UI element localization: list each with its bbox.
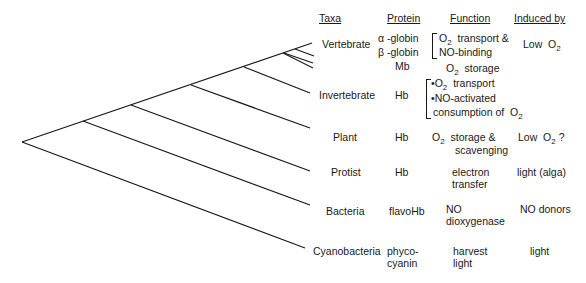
function-invertebrate-2: •NO-activated [431, 92, 496, 104]
protein-cyanobacteria-1: phyco- [387, 245, 419, 257]
induced-cyanobacteria: light [530, 245, 549, 257]
protein-beta-globin: β -globin [378, 46, 418, 58]
protein-bacteria: flavoHb [389, 205, 425, 217]
function-vertebrate-1: O2 transport & [439, 32, 509, 44]
branch-bacteria [83, 121, 310, 205]
protein-alpha-globin: α -globin [378, 32, 419, 44]
induced-plant: Low O2 ? [518, 131, 564, 143]
function-vertebrate-2: NO-binding [439, 46, 492, 58]
branch-mb [283, 53, 313, 68]
function-cyanobacteria-2: light [453, 257, 472, 269]
induced-bacteria: NO donors [520, 203, 571, 215]
branch-invertebrate [244, 67, 310, 93]
taxa-cyanobacteria: Cyanobacteria [313, 245, 381, 257]
protein-invertebrate: Hb [395, 89, 408, 101]
taxa-protist: Protist [331, 166, 361, 178]
header-function: Function [450, 12, 490, 24]
branch-plant [191, 85, 310, 128]
header-protein: Protein [387, 12, 420, 24]
function-plant-2: scavenging [455, 144, 508, 156]
function-invertebrate-3: consumption of O2 [433, 106, 523, 118]
function-vertebrate-3: O2 storage [446, 62, 499, 74]
branch-protist [131, 105, 310, 171]
branch-alpha-globin [295, 49, 314, 56]
header-induced-by: Induced by [514, 12, 565, 24]
function-invertebrate-1: •O2 transport [431, 77, 495, 89]
function-protist-1: electron [452, 166, 489, 178]
function-bracket-vertebrate [432, 33, 437, 59]
protein-protist: Hb [395, 166, 408, 178]
induced-vertebrate: Low O2 [523, 38, 561, 50]
function-protist-2: transfer [452, 178, 488, 190]
taxa-invertebrate: Invertebrate [319, 89, 375, 101]
protein-cyanobacteria-2: cyanin [387, 257, 417, 269]
protein-plant: Hb [395, 131, 408, 143]
function-plant-1: O2 storage & [432, 131, 495, 143]
protein-mb: Mb [395, 60, 410, 72]
taxa-plant: Plant [333, 131, 357, 143]
function-bacteria-2: dioxygenase [446, 215, 505, 227]
function-bacteria-1: NO [446, 203, 462, 215]
trunk-upper-edge [22, 43, 312, 142]
branch-cyanobacteria [22, 142, 305, 248]
taxa-vertebrate: Vertebrate [322, 38, 370, 50]
header-taxa: Taxa [319, 12, 341, 24]
induced-protist: light (alga) [517, 166, 566, 178]
taxa-bacteria: Bacteria [326, 205, 365, 217]
function-cyanobacteria-1: harvest [453, 245, 487, 257]
